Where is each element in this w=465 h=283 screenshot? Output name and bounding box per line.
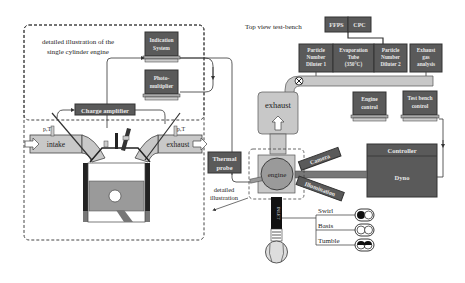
controller-label: Controller [387,147,416,154]
engine-control: Engine control [351,92,388,121]
exhaust-gas-analysis: Exhaust gas analysis [410,44,442,72]
svg-text:System: System [153,45,170,51]
svg-text:Number: Number [307,54,326,60]
svg-text:Test bench: Test bench [407,95,432,101]
svg-text:gas: gas [422,54,429,60]
swirl-label: Swirl [318,207,333,215]
signal-line-photomultiplier [180,58,213,92]
tumble-icon [355,239,374,251]
basis-label: Basis [318,222,333,230]
intake-label: intake [47,140,66,149]
pt-sensor-right: p,T [177,126,186,132]
dyno: Controller Dyno [367,144,437,197]
svg-text:probe: probe [216,164,232,171]
piston-pin [109,190,121,202]
svg-text:Evaporation: Evaporation [339,47,367,53]
svg-text:Diluter 1: Diluter 1 [306,61,326,67]
ffps-cpc: FFPS CPC [325,17,371,32]
svg-text:Engine: Engine [361,96,378,102]
svg-text:(350°C): (350°C) [345,61,363,68]
particle-number-diluter-1: Particle Number Diluter 1 [299,44,333,72]
svg-text:control: control [361,104,378,110]
exhaust-port-label: exhaust [167,140,191,149]
test-bench-title: Top view test-bench [245,23,302,31]
svg-text:Particle: Particle [307,47,325,53]
svg-text:Number: Number [381,54,400,60]
svg-text:multiplier: multiplier [150,83,174,89]
pressure-sensor [104,141,108,147]
svg-text:Tube: Tube [348,54,360,60]
cpc-label: CPC [353,22,365,28]
evaporation-tube: Evaporation Tube (350°C) [333,44,374,72]
particle-number-diluter-2: Particle Number Diluter 2 [374,44,407,72]
panel-caption-line2: single cylinder engine [47,48,109,56]
camera: Camera [298,147,341,170]
signal-line-indication [107,58,143,128]
charge-amplifier-label: Charge amplifier [81,107,129,114]
exhaust-port: exhaust p,T [135,113,207,162]
engine-test-bench-diagram: detailed illustration of the single cyli… [0,0,465,283]
cylinder [83,163,150,222]
ffps-label: FFPS [329,22,344,28]
svg-text:Photo-: Photo- [154,75,170,81]
engine-label: engine [268,171,287,179]
svg-text:control: control [412,103,429,109]
inlet-runner: INLET [266,197,288,263]
basis-icon [355,224,374,236]
detailed-illustration-line1: detailed [214,186,235,193]
dyno-label: Dyno [395,174,410,181]
test-bench-control: Test bench control [401,91,439,121]
pt-sensor-left: p,T [43,126,52,132]
svg-text:Diluter 2: Diluter 2 [380,61,400,67]
spark-plug [115,133,118,149]
inlet-label: INLET [276,207,281,220]
detailed-illustration-line2: illustration [210,194,239,201]
exhaust-box-label: exhaust [265,100,292,110]
svg-text:analysis: analysis [417,61,435,67]
panel-caption-line1: detailed illustration of the [42,38,114,46]
swirl-icon [355,209,374,221]
tumble-label: Tumble [318,237,340,245]
indication-system: Indication System [143,32,180,62]
air-filter [266,241,288,263]
photomultiplier: Photo- multiplier [143,70,180,100]
svg-text:Exhaust: Exhaust [417,47,436,53]
svg-text:Thermal: Thermal [212,155,236,162]
svg-text:Indication: Indication [149,37,173,43]
svg-text:Particle: Particle [382,47,400,53]
